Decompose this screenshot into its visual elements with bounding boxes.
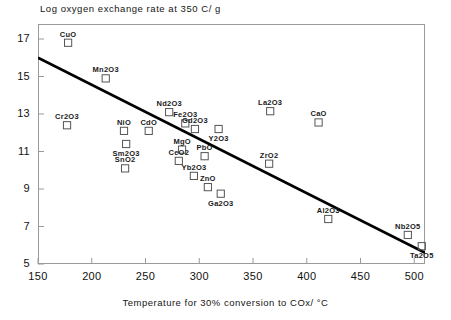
- data-point-label: CdO: [140, 118, 157, 127]
- data-point-label: Cr2O3: [55, 112, 79, 121]
- data-point-label: CuO: [60, 30, 77, 39]
- plot-area: [38, 24, 425, 264]
- x-tick-label: 400: [287, 270, 327, 282]
- x-tick-label: 150: [18, 270, 58, 282]
- y-tick-label: 11: [4, 145, 30, 157]
- data-point-label: Al2O3: [317, 206, 340, 215]
- data-point-label: NiO: [117, 118, 131, 127]
- x-tick-label: 200: [72, 270, 112, 282]
- data-point-label: MgO: [173, 137, 190, 146]
- x-axis-title: Temperature for 30% conversion to COx/ °…: [0, 297, 451, 308]
- x-tick-label: 300: [179, 270, 219, 282]
- y-tick-label: 13: [4, 107, 30, 119]
- y-tick-label: 17: [4, 32, 30, 44]
- data-point-label: CaO: [311, 109, 327, 118]
- data-point-label: ZnO: [200, 174, 216, 183]
- y-tick-label: 9: [4, 182, 30, 194]
- x-tick-label: 450: [341, 270, 381, 282]
- data-point-label: Nd2O3: [156, 99, 181, 108]
- data-point-label: PbO: [197, 143, 213, 152]
- data-point-label: Ta2O5: [410, 251, 434, 260]
- data-point-label: ZrO2: [260, 151, 279, 160]
- data-point-label: Mn2O3: [93, 65, 119, 74]
- data-point-label: Gd2O3: [182, 116, 208, 125]
- data-point-label: Ga2O3: [208, 199, 233, 208]
- data-point-label: Y2O3: [209, 134, 229, 143]
- y-tick-label: 15: [4, 70, 30, 82]
- data-point-label: SnO2: [115, 155, 136, 164]
- y-tick-label: 7: [4, 220, 30, 232]
- data-point-label: Nb2O5: [395, 222, 420, 231]
- chart-title: Log oxygen exchange rate at 350 C/ g: [40, 3, 221, 14]
- data-point-label: La2O3: [258, 98, 282, 107]
- x-tick-label: 500: [394, 270, 434, 282]
- chart-figure: Log oxygen exchange rate at 350 C/ g 579…: [0, 0, 451, 320]
- data-point-label: Yb2O3: [181, 163, 206, 172]
- y-tick-label: 5: [4, 257, 30, 269]
- x-tick-label: 350: [233, 270, 273, 282]
- x-tick-label: 250: [126, 270, 166, 282]
- data-point-label: CeO2: [169, 148, 190, 157]
